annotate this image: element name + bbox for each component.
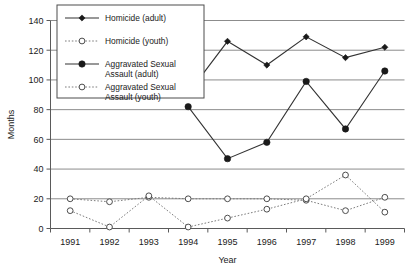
data-point-open — [107, 224, 113, 230]
data-point-open — [382, 209, 388, 215]
line-chart: 020406080100120140 199119921993199419951… — [0, 0, 412, 273]
data-point-filled — [264, 139, 270, 145]
y-tick-label: 0 — [38, 224, 43, 234]
x-tick-label: 1996 — [257, 237, 277, 247]
data-point-open — [382, 194, 388, 200]
data-point-filled — [382, 68, 388, 74]
data-point-open — [225, 215, 231, 221]
series-1 — [185, 34, 388, 97]
data-point-filled — [342, 126, 348, 132]
series-3 — [185, 68, 388, 162]
y-tick-label: 140 — [28, 16, 43, 26]
data-point-open — [264, 196, 270, 202]
data-point-open — [264, 206, 270, 212]
series-line — [188, 37, 385, 93]
x-axis-title: Year — [218, 255, 236, 265]
data-point-open — [79, 84, 85, 90]
x-tick-label: 1999 — [375, 237, 395, 247]
x-tick-label: 1994 — [178, 237, 198, 247]
legend-label: Assault (youth) — [105, 92, 161, 102]
data-point-open — [185, 196, 191, 202]
x-tick-label: 1993 — [139, 237, 159, 247]
x-axis-ticks — [51, 229, 405, 233]
data-point-open — [303, 196, 309, 202]
y-tick-label: 40 — [33, 164, 43, 174]
x-tick-label: 1991 — [60, 237, 80, 247]
x-tick-label: 1995 — [217, 237, 237, 247]
data-point-diamond — [342, 55, 348, 61]
y-tick-label: 80 — [33, 105, 43, 115]
data-point-open — [107, 199, 113, 205]
data-point-filled — [185, 103, 191, 109]
legend-label: Homicide (youth) — [105, 36, 169, 46]
x-tick-label: 1997 — [296, 237, 316, 247]
legend: Homicide (adult)Homicide (youth)Aggravat… — [57, 5, 204, 102]
y-tick-label: 100 — [28, 75, 43, 85]
data-point-open — [79, 38, 85, 44]
x-tick-label: 1992 — [99, 237, 119, 247]
y-axis-title: Months — [6, 109, 16, 139]
data-point-open — [67, 208, 73, 214]
legend-label: Aggravated Sexual — [105, 59, 176, 69]
y-tick-label: 60 — [33, 135, 43, 145]
data-point-open — [185, 224, 191, 230]
data-point-open — [343, 208, 349, 214]
y-axis-tick-labels: 020406080100120140 — [28, 16, 43, 234]
data-point-open — [343, 172, 349, 178]
data-point-filled — [224, 155, 230, 161]
data-point-open — [67, 196, 73, 202]
data-point-open — [146, 193, 152, 199]
data-point-diamond — [382, 44, 388, 50]
y-tick-label: 20 — [33, 194, 43, 204]
series-line — [188, 71, 385, 159]
legend-label: Homicide (adult) — [105, 13, 166, 23]
legend-label: Aggravated Sexual — [105, 82, 176, 92]
data-point-filled — [303, 78, 309, 84]
x-tick-label: 1998 — [335, 237, 355, 247]
data-point-filled — [79, 61, 85, 67]
chart-container: 020406080100120140 199119921993199419951… — [0, 0, 412, 273]
series-2 — [67, 194, 387, 213]
y-axis-ticks — [47, 21, 51, 229]
y-tick-label: 120 — [28, 46, 43, 56]
x-axis-tick-labels: 199119921993199419951996199719981999 — [60, 237, 395, 247]
legend-label: Assault (adult) — [105, 69, 159, 79]
data-point-open — [225, 196, 231, 202]
